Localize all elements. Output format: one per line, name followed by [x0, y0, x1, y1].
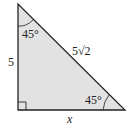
hypotenuse-label: 5√2: [72, 44, 91, 58]
top-angle-label: 45°: [22, 27, 39, 41]
bottom-right-angle-label: 45°: [85, 93, 102, 107]
bottom-side-label: x: [66, 112, 73, 126]
left-side-label: 5: [8, 55, 14, 69]
triangle-diagram: 5 45° 5√2 45° x: [0, 0, 132, 134]
